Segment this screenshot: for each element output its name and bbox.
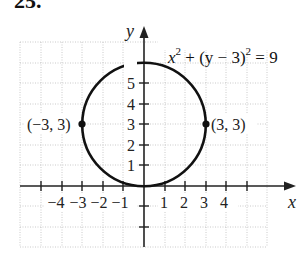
point-right-label: (3, 3)	[211, 116, 246, 134]
x-tick-label: 4	[220, 194, 228, 211]
y-axis-label: y	[124, 21, 134, 41]
x-tick-label: 2	[180, 194, 188, 211]
point-right-marker	[202, 120, 209, 127]
x-tick-label: 1	[160, 194, 168, 211]
y-tick-label: 5	[127, 75, 135, 92]
x-tick-label: 3	[200, 194, 208, 211]
y-tick-label: 4	[127, 96, 135, 113]
y-tick-label: 2	[127, 137, 135, 154]
point-left-label: (−3, 3)	[27, 116, 71, 134]
x-tick-label: −4	[47, 194, 64, 211]
circle-graph: −4 −3 −2 −1 1 2 3 4 5 4 3 2 1 y x (−3, 3…	[0, 0, 304, 258]
axes	[20, 34, 290, 247]
y-axis-arrow-icon	[140, 26, 149, 38]
x-tick-label: −3	[69, 194, 86, 211]
x-tick-label: −2	[90, 194, 107, 211]
y-tick-label: 3	[127, 116, 135, 133]
x-tick-label: −1	[111, 194, 128, 211]
point-left-marker	[78, 120, 85, 127]
equation-label: x2 + (y − 3)2 = 9	[167, 45, 278, 67]
y-tick-label: 1	[127, 157, 135, 174]
x-axis-arrow-icon	[284, 182, 296, 191]
x-axis-label: x	[287, 192, 296, 212]
